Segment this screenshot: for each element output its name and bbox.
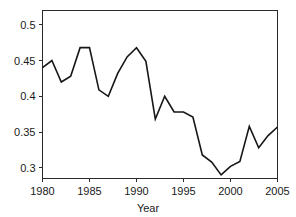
x-tick-label: 2000 — [218, 185, 242, 197]
y-tick-label: 0.4 — [20, 90, 35, 102]
x-axis-ticks — [43, 179, 278, 183]
x-tick-label: 1985 — [77, 185, 101, 197]
x-axis-tick-labels: 198019851990199520002005 — [30, 185, 289, 197]
x-tick-label: 2005 — [265, 185, 289, 197]
y-tick-label: 0.35 — [14, 126, 35, 138]
chart-container: 0.30.350.40.450.5 1980198519901995200020… — [0, 0, 296, 217]
x-tick-label: 1980 — [30, 185, 54, 197]
x-tick-label: 1990 — [124, 185, 148, 197]
y-tick-label: 0.5 — [20, 19, 35, 31]
y-axis-tick-labels: 0.30.350.40.450.5 — [14, 19, 35, 174]
y-tick-label: 0.45 — [14, 55, 35, 67]
x-tick-label: 1995 — [171, 185, 195, 197]
y-axis-ticks — [39, 25, 43, 168]
line-chart: 0.30.350.40.450.5 1980198519901995200020… — [0, 0, 296, 217]
y-tick-label: 0.3 — [20, 162, 35, 174]
data-series-line — [43, 48, 278, 175]
x-axis-title: Year — [137, 202, 160, 214]
